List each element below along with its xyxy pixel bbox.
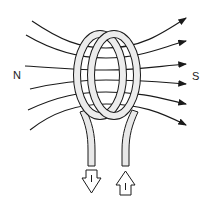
current-arrow-out-icon xyxy=(82,170,101,193)
magnetic-field-diagram xyxy=(0,0,213,207)
current-arrow-in-icon xyxy=(116,171,135,195)
